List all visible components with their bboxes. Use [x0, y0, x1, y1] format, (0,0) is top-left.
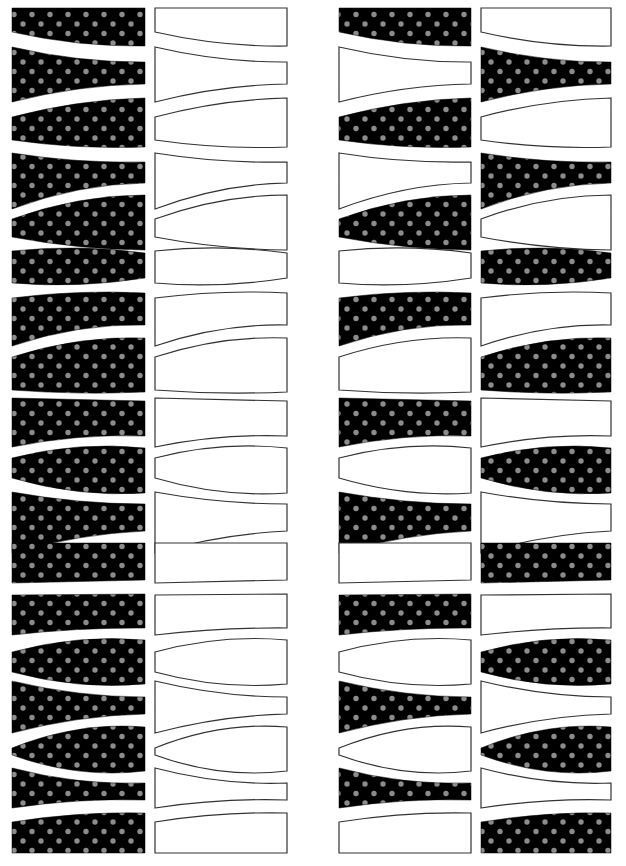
- blank-nail-decal: [339, 726, 471, 773]
- dotted-nail-decal: [339, 98, 471, 148]
- dotted-nail-decal: [481, 446, 611, 494]
- blank-nail-decal: [155, 195, 287, 250]
- dotted-nail-decal: [481, 726, 611, 773]
- dotted-nail-decal: [339, 8, 471, 46]
- blank-nail-decal: [481, 681, 611, 733]
- dotted-nail-decal: [339, 681, 471, 733]
- dotted-nail-decal: [12, 8, 145, 46]
- blank-nail-decal: [155, 726, 287, 773]
- dotted-nail-decal: [12, 681, 145, 733]
- dotted-nail-decal: [12, 398, 145, 447]
- dotted-nail-decal: [339, 398, 471, 447]
- blank-nail-decal: [481, 195, 611, 250]
- dotted-nail-decal: [12, 248, 145, 285]
- blank-nail-decal: [481, 594, 611, 635]
- blank-nail-decal: [481, 8, 611, 46]
- dotted-nail-decal: [12, 543, 145, 583]
- blank-nail-decal: [155, 398, 287, 447]
- nail-decal-sheet: [0, 0, 626, 866]
- dotted-nail-decal: [12, 446, 145, 494]
- blank-nail-decal: [155, 681, 287, 733]
- dotted-nail-decal: [12, 47, 145, 102]
- dotted-nail-decal: [481, 639, 611, 686]
- dotted-nail-decal: [12, 594, 145, 635]
- blank-nail-decal: [155, 543, 287, 583]
- blank-nail-decal: [155, 594, 287, 635]
- blank-nail-decal: [339, 639, 471, 686]
- dotted-nail-decal: [12, 639, 145, 686]
- blank-nail-decal: [339, 338, 471, 393]
- dotted-nail-decal: [481, 543, 611, 583]
- blank-nail-decal: [155, 813, 287, 853]
- blank-nail-decal: [155, 8, 287, 46]
- dotted-nail-decal: [339, 768, 471, 808]
- dotted-nail-decal: [481, 813, 611, 853]
- blank-nail-decal: [155, 768, 287, 808]
- dotted-nail-decal: [481, 338, 611, 393]
- blank-nail-decal: [155, 47, 287, 102]
- blank-nail-decal: [155, 639, 287, 686]
- dotted-nail-decal: [12, 768, 145, 808]
- blank-nail-decal: [339, 813, 471, 853]
- dotted-nail-decal: [481, 47, 611, 102]
- dotted-nail-decal: [12, 98, 145, 148]
- blank-nail-decal: [339, 47, 471, 102]
- blank-nail-decal: [155, 98, 287, 148]
- blank-nail-decal: [339, 446, 471, 494]
- dotted-nail-decal: [12, 726, 145, 773]
- blank-nail-decal: [481, 98, 611, 148]
- dotted-nail-decal: [12, 338, 145, 393]
- blank-nail-decal: [155, 338, 287, 393]
- blank-nail-decal: [339, 543, 471, 583]
- dotted-nail-decal: [339, 195, 471, 250]
- dotted-nail-decal: [12, 195, 145, 250]
- blank-nail-decal: [481, 768, 611, 808]
- dotted-nail-decal: [339, 594, 471, 635]
- blank-nail-decal: [155, 248, 287, 285]
- blank-nail-decal: [155, 446, 287, 494]
- blank-nail-decal: [481, 398, 611, 447]
- dotted-nail-decal: [481, 248, 611, 285]
- blank-nail-decal: [339, 248, 471, 285]
- dotted-nail-decal: [12, 813, 145, 853]
